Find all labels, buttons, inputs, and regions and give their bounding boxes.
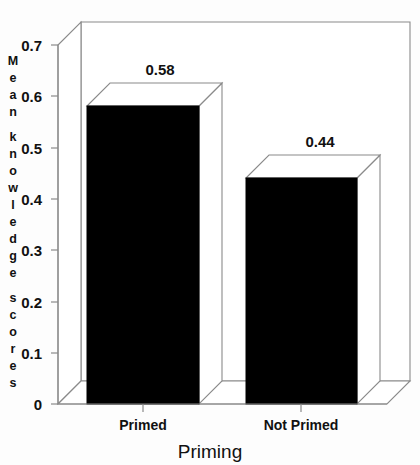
y-axis-title-char: k — [6, 131, 20, 144]
y-tick-label-0.7: 0.7 — [4, 38, 42, 53]
plot-left-wall — [58, 22, 81, 404]
y-axis-title-char: M — [6, 55, 20, 68]
y-axis-title-char: g — [6, 250, 20, 263]
y-axis-title-char: o — [6, 165, 20, 178]
y-axis-title-char: e — [6, 72, 20, 85]
bar-not-primed-side-face — [357, 155, 380, 404]
bar-primed-front-face — [87, 106, 199, 404]
x-axis-ticks — [143, 404, 301, 412]
y-tick-label-0: 0 — [4, 397, 42, 412]
y-axis-title-char: o — [6, 326, 20, 339]
y-axis-title-char: n — [6, 148, 20, 161]
y-axis-title-char: s — [6, 292, 20, 305]
bar-value-label-primed: 0.58 — [125, 62, 195, 77]
x-category-label-not-primed: Not Primed — [241, 418, 361, 432]
y-axis-title-char: l — [6, 199, 20, 212]
y-axis-title-char: n — [6, 106, 20, 119]
y-axis-title-char: r — [6, 343, 20, 356]
bar-value-label-not-primed: 0.44 — [285, 134, 355, 149]
y-axis-title-char: c — [6, 309, 20, 322]
x-category-label-primed: Primed — [93, 418, 193, 432]
y-axis-title-char: d — [6, 233, 20, 246]
chart-canvas — [0, 0, 420, 465]
x-axis-title: Priming — [0, 442, 420, 461]
y-axis-title-char: e — [6, 360, 20, 373]
bar-not-primed-top-face — [246, 155, 380, 178]
y-axis-ticks — [51, 45, 58, 404]
y-axis-title-char: s — [6, 377, 20, 390]
bar-chart-figure: 0.7 0.6 0.5 0.4 0.3 0.2 0.1 0 M e a n k … — [0, 0, 420, 465]
y-axis-title-char: e — [6, 267, 20, 280]
y-axis-title-char: e — [6, 216, 20, 229]
bar-not-primed-front-face — [246, 178, 357, 404]
y-axis-title-char: w — [6, 182, 20, 195]
bar-primed-side-face — [199, 83, 222, 404]
bar-primed-top-face — [87, 83, 222, 106]
y-axis-title-char: a — [6, 89, 20, 102]
